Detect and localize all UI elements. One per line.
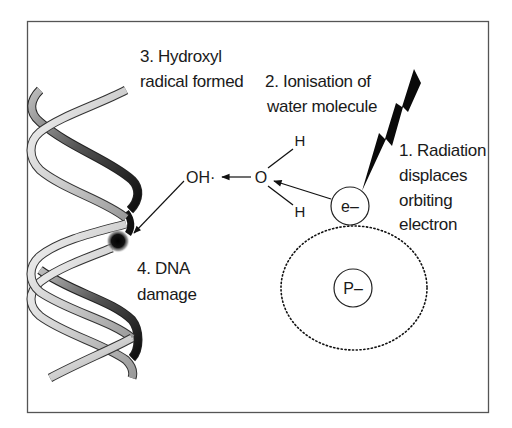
radiation-dna-damage-diagram: e– P– O H H OH· 3. Hydroxyl radical form… — [0, 0, 512, 428]
hydrogen-atom-top: H — [295, 132, 306, 149]
step-2-line-1: 2. Ionisation of — [265, 72, 371, 91]
step-3-line-2: radical formed — [140, 72, 244, 91]
oxygen-atom: O — [255, 169, 267, 186]
hydrogen-atom-bottom: H — [295, 203, 306, 220]
nucleus-label: P– — [343, 280, 363, 297]
step-4-line-1: 4. DNA — [137, 259, 191, 278]
step-3-line-1: 3. Hydroxyl — [140, 47, 222, 66]
step-4-line-2: damage — [137, 285, 197, 304]
step-1-line-4: electron — [399, 215, 457, 234]
step-1-line-1: 1. Radiation — [399, 141, 486, 160]
hydroxyl-radical-label: OH· — [186, 169, 215, 186]
step-1-line-2: displaces — [399, 166, 467, 185]
step-1-line-3: orbiting — [399, 191, 452, 210]
step-2-line-2: water molecule — [266, 97, 377, 116]
dna-damage-spot-icon — [106, 229, 130, 253]
electron-label: e– — [341, 198, 359, 215]
